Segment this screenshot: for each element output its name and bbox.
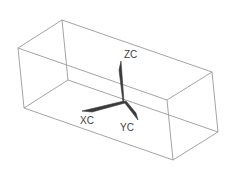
box-edge [24,80,68,108]
box-edge [173,132,218,160]
box-edge [62,20,68,80]
diagram-canvas: ZC XC YC [0,0,234,172]
box-edge [18,20,62,48]
zc-axis-arrow-icon [119,61,124,102]
box-edge [62,20,212,72]
box-edge [18,48,24,108]
zc-label: ZC [124,49,137,60]
box-edge [24,108,173,160]
yc-label: YC [120,122,134,133]
box-edge [18,48,167,100]
coordinate-triad: ZC XC YC [80,49,138,133]
box-edge [167,72,212,100]
box-edge [212,72,218,132]
xc-axis-arrow-icon [82,101,125,112]
box-edge [167,100,173,160]
xc-label: XC [80,115,94,126]
wireframe-box [18,20,218,160]
